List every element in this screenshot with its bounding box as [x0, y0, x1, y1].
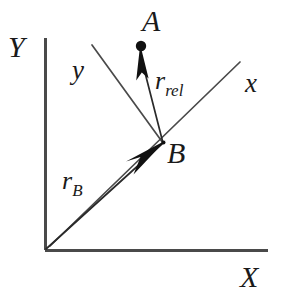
- global-x-axis-label: X: [240, 262, 258, 292]
- local-y-axis-line: [92, 45, 163, 143]
- r-b-arrowhead: [126, 141, 166, 175]
- r-b-subscript: B: [72, 181, 82, 200]
- r-rel-vector-label: rrel: [155, 68, 183, 94]
- point-a-dot: [136, 41, 146, 51]
- local-y-axis-label: y: [72, 57, 84, 84]
- global-y-axis-label: Y: [8, 32, 25, 62]
- vector-diagram-svg: [0, 0, 283, 301]
- r-b-vector-label: rB: [62, 168, 83, 194]
- local-x-axis-label: x: [245, 70, 257, 97]
- figure-container: Y X x y A B rrel rB: [0, 0, 283, 301]
- point-b-label: B: [167, 138, 185, 168]
- r-rel-subscript: rel: [165, 81, 183, 100]
- r-b-base: r: [62, 166, 72, 195]
- r-rel-base: r: [155, 66, 165, 95]
- point-b-dot: [162, 141, 166, 145]
- point-a-label: A: [142, 6, 160, 36]
